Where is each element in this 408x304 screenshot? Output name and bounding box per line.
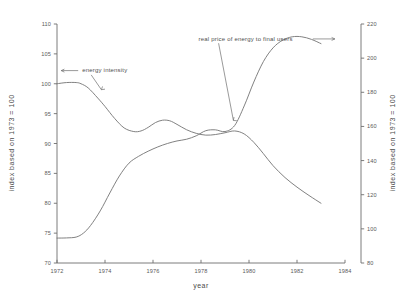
- right-tick-label: 100: [367, 226, 377, 232]
- right-tick-label: 80: [367, 260, 374, 266]
- right-tick-label: 180: [367, 89, 377, 95]
- x-tick-label: 1980: [242, 268, 255, 274]
- series-line-energy-intensity: [57, 82, 321, 203]
- x-tick-label: 1982: [290, 268, 303, 274]
- annotation-label: real price of energy to final users: [199, 36, 293, 42]
- left-tick-label: 105: [41, 51, 51, 57]
- annotation-group: energy intensityreal price of energy to …: [61, 36, 335, 121]
- left-tick-label: 85: [44, 170, 51, 176]
- left-tick-label: 70: [44, 260, 51, 266]
- x-axis-ticks: 1972197419761978198019821984: [50, 260, 351, 274]
- right-axis-title: index based on 1973 = 100: [389, 94, 396, 191]
- left-tick-label: 75: [44, 230, 51, 236]
- right-tick-label: 220: [367, 21, 377, 27]
- x-tick-label: 1978: [194, 268, 207, 274]
- left-tick-label: 95: [44, 111, 51, 117]
- x-tick-label: 1976: [146, 268, 159, 274]
- axes-group: [57, 24, 361, 263]
- left-tick-label: 80: [44, 200, 51, 206]
- left-tick-label: 110: [42, 21, 51, 27]
- right-tick-label: 120: [367, 192, 377, 198]
- left-tick-label: 90: [44, 141, 51, 147]
- left-tick-label: 100: [41, 81, 51, 87]
- chart-figure: 707580859095100105110 801001201401601802…: [0, 0, 408, 304]
- x-tick-label: 1972: [50, 268, 63, 274]
- x-tick-label: 1974: [98, 268, 111, 274]
- left-axis-ticks: 707580859095100105110: [41, 21, 57, 266]
- x-axis-title: year: [193, 282, 209, 290]
- right-tick-label: 140: [367, 158, 377, 164]
- annotation-label: energy intensity: [82, 67, 127, 73]
- left-axis-title: index based on 1973 = 100: [8, 94, 15, 191]
- right-tick-label: 200: [367, 55, 377, 61]
- x-tick-label: 1984: [338, 268, 351, 274]
- right-tick-label: 160: [367, 123, 377, 129]
- right-axis-ticks: 80100120140160180200220: [361, 21, 377, 266]
